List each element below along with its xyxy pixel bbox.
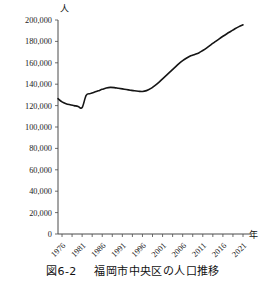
x-tick-label: 2016 (210, 241, 228, 259)
y-tick-label: 100,000 (25, 123, 52, 132)
chart-axes (55, 20, 251, 237)
x-tick-label: 1996 (130, 241, 148, 259)
figure-container: 020,00040,00060,00080,000100,000120,0001… (0, 0, 266, 285)
x-tick-label: 1976 (49, 241, 67, 259)
y-tick-label: 120,000 (25, 102, 52, 111)
x-tick-label: 2006 (170, 241, 188, 259)
x-axis-tick-labels: 1976198119861991199620012006201120162021 (49, 241, 248, 259)
y-tick-label: 80,000 (29, 144, 52, 153)
y-tick-label: 200,000 (25, 16, 52, 25)
x-tick-label: 1991 (110, 241, 128, 259)
data-series-line (58, 25, 243, 108)
x-tick-label: 2021 (230, 241, 248, 259)
y-tick-label: 140,000 (25, 80, 52, 89)
x-axis-unit-label: 年 (249, 229, 258, 240)
x-tick-label: 1986 (90, 241, 108, 259)
y-axis-unit-label: 人 (60, 4, 69, 14)
population-line-chart: 020,00040,00060,00080,000100,000120,0001… (0, 0, 266, 285)
x-tick-label: 2011 (190, 241, 208, 259)
y-tick-label: 0 (48, 230, 52, 239)
y-axis-tick-labels: 020,00040,00060,00080,000100,000120,0001… (25, 16, 52, 239)
y-tick-label: 180,000 (25, 37, 52, 46)
x-tick-label: 2001 (150, 241, 168, 259)
caption-number: 図6-2 (46, 265, 77, 278)
figure-caption: 図6-2 福岡市中央区の人口推移 (0, 262, 266, 278)
y-tick-label: 60,000 (29, 166, 52, 175)
y-tick-label: 40,000 (29, 187, 52, 196)
y-tick-label: 160,000 (25, 59, 52, 68)
y-tick-label: 20,000 (29, 209, 52, 218)
caption-title: 福岡市中央区の人口推移 (94, 265, 219, 278)
data-series-group (58, 25, 243, 108)
x-tick-label: 1981 (69, 241, 87, 259)
